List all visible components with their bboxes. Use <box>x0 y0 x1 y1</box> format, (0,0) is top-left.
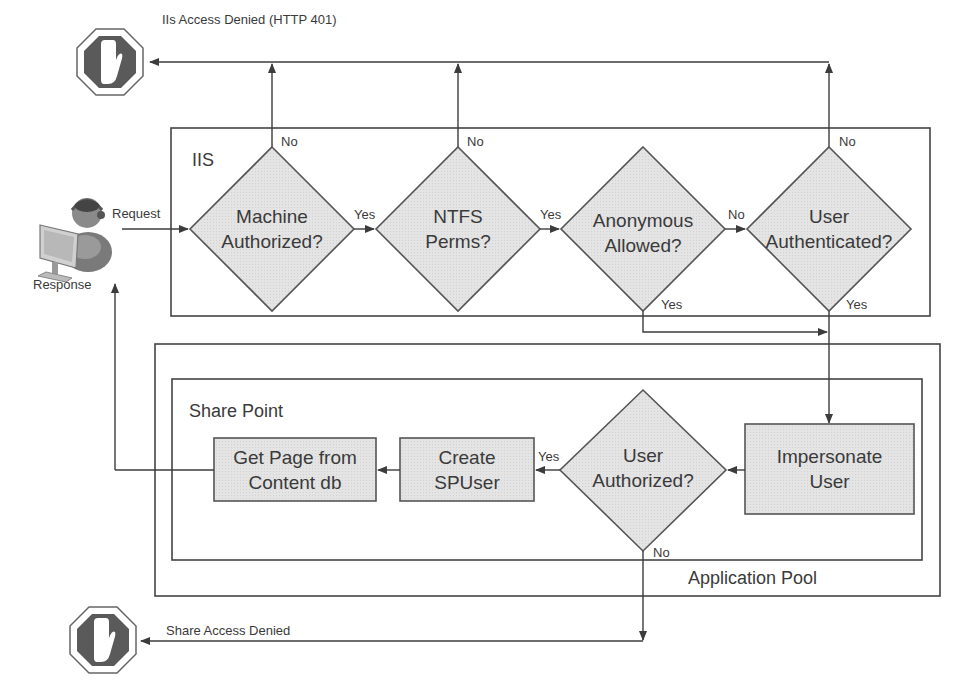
flowchart-canvas <box>0 0 971 693</box>
share-denied-label: Share Access Denied <box>166 623 290 638</box>
request-label: Request <box>112 206 160 221</box>
authz-no-label: No <box>653 545 670 560</box>
app-pool-group-label: Application Pool <box>688 568 817 589</box>
user-computer-icon <box>38 198 112 282</box>
stop-hand-icon-bottom <box>70 607 136 673</box>
machine-authorized-text: Machine Authorized? <box>200 189 344 269</box>
ntfs-perms-text: NTFS Perms? <box>386 189 530 269</box>
auth-no-label: No <box>839 134 856 149</box>
authz-yes-label: Yes <box>538 449 559 464</box>
response-label: Response <box>33 277 92 292</box>
machine-no-label: No <box>281 134 298 149</box>
machine-yes-label: Yes <box>354 207 375 222</box>
create-spuser-text: Create SPUser <box>400 438 534 501</box>
auth-yes-label: Yes <box>846 297 867 312</box>
anonymous-allowed-text: Anonymous Allowed? <box>571 193 715 273</box>
anon-no-label: No <box>728 207 745 222</box>
iis-denied-label: IIs Access Denied (HTTP 401) <box>162 12 337 27</box>
impersonate-user-text: Impersonate User <box>745 424 914 514</box>
user-authenticated-text: User Authenticated? <box>749 189 909 269</box>
sharepoint-group-label: Share Point <box>189 401 283 422</box>
stop-hand-icon-top <box>77 29 143 95</box>
ntfs-no-label: No <box>467 134 484 149</box>
ntfs-yes-label: Yes <box>540 207 561 222</box>
user-authorized-text: User Authorized? <box>573 428 713 508</box>
get-page-text: Get Page from Content db <box>214 438 376 501</box>
anon-yes-label: Yes <box>661 297 682 312</box>
anon-yes-path <box>643 311 827 332</box>
iis-group-label: IIS <box>192 150 214 171</box>
